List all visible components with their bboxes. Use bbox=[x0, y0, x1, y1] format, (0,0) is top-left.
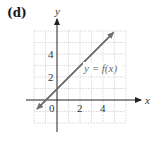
x-axis-label: x bbox=[144, 94, 150, 106]
function-label: y = f(x) bbox=[83, 62, 117, 75]
x-tick-2: 2 bbox=[77, 102, 83, 114]
function-graph: y x 0 2 4 4 2 y = f(x) bbox=[0, 0, 160, 141]
y-tick-2: 2 bbox=[48, 71, 54, 83]
y-axis-label: y bbox=[54, 5, 60, 17]
x-tick-4: 4 bbox=[100, 102, 106, 114]
x-tick-0: 0 bbox=[49, 102, 55, 114]
y-tick-4: 4 bbox=[48, 48, 54, 60]
